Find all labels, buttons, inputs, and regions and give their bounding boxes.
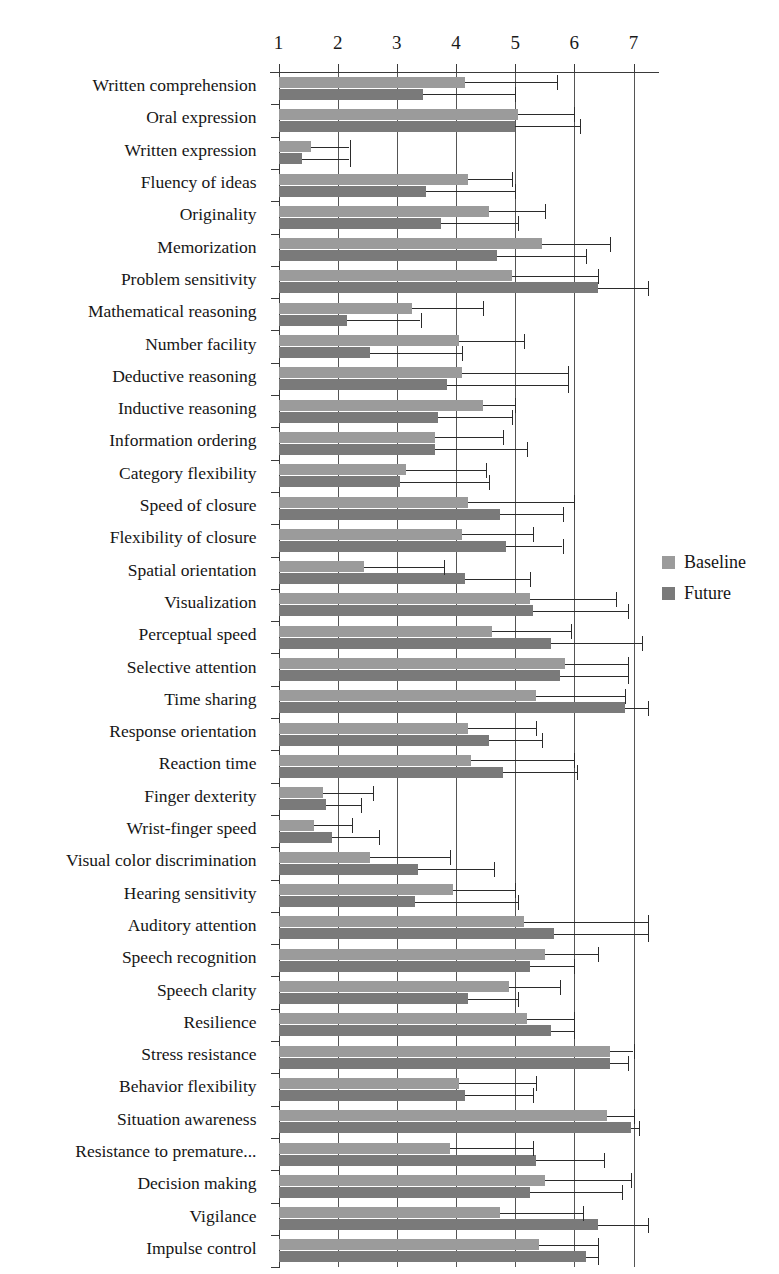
- error-bar-baseline-line: [512, 276, 598, 277]
- category-label: Originality: [0, 206, 269, 224]
- category-tick: [271, 944, 280, 945]
- legend-label: Future: [684, 583, 731, 604]
- error-bar-baseline-cap: [583, 1206, 584, 1221]
- category-label: Stress resistance: [0, 1046, 269, 1064]
- error-bar-baseline-line: [468, 502, 575, 503]
- legend-label: Baseline: [684, 552, 746, 573]
- bar-future: [279, 89, 424, 100]
- category-label: Memorization: [0, 239, 269, 257]
- x-tick-label: 5: [495, 32, 535, 54]
- bar-future: [279, 735, 489, 746]
- bar-baseline: [279, 1078, 459, 1089]
- bar-future: [279, 1219, 599, 1230]
- error-bar-future-cap: [586, 249, 587, 264]
- error-bar-baseline-cap: [571, 624, 572, 639]
- error-bar-future-cap: [574, 1024, 575, 1039]
- category-tick: [271, 330, 280, 331]
- error-bar-future-cap: [462, 346, 463, 361]
- error-bar-baseline-line: [412, 308, 483, 309]
- category-label: Resistance to premature...: [0, 1143, 269, 1161]
- error-bar-baseline-cap: [450, 850, 451, 865]
- error-bar-baseline-line: [542, 244, 610, 245]
- category-label: Selective attention: [0, 659, 269, 677]
- error-bar-baseline-line: [607, 1116, 634, 1117]
- error-bar-baseline-line: [311, 147, 349, 148]
- error-bar-future-line: [631, 1128, 640, 1129]
- category-label: Number facility: [0, 336, 269, 354]
- error-bar-future-cap: [577, 765, 578, 780]
- bar-baseline: [279, 174, 468, 185]
- bar-baseline: [279, 270, 513, 281]
- error-bar-future-cap: [494, 862, 495, 877]
- category-tick: [271, 750, 280, 751]
- error-bar-baseline-line: [565, 664, 627, 665]
- bar-future: [279, 1155, 536, 1166]
- category-tick: [271, 201, 280, 202]
- error-bar-future-cap: [361, 798, 362, 813]
- bar-baseline: [279, 497, 468, 508]
- error-bar-baseline-line: [314, 825, 352, 826]
- bar-baseline: [279, 916, 525, 927]
- error-bar-future-line: [423, 94, 515, 95]
- error-bar-future-cap: [642, 636, 643, 651]
- category-tick: [271, 363, 280, 364]
- error-bar-future-line: [489, 740, 542, 741]
- bar-baseline: [279, 658, 566, 669]
- error-bar-future-line: [400, 482, 489, 483]
- x-tick-label: 3: [377, 32, 417, 54]
- error-bar-future-cap: [648, 281, 649, 296]
- bar-future: [279, 864, 418, 875]
- bar-future: [279, 347, 371, 358]
- category-label: Speech recognition: [0, 949, 269, 967]
- error-bar-baseline-line: [483, 405, 516, 406]
- error-bar-baseline-cap: [634, 1109, 635, 1124]
- error-bar-future-line: [586, 1257, 598, 1258]
- error-bar-future-line: [598, 288, 648, 289]
- category-tick: [271, 524, 280, 525]
- error-bar-future-line: [347, 320, 421, 321]
- error-bar-future-line: [625, 708, 649, 709]
- bar-baseline: [279, 303, 412, 314]
- error-bar-future-line: [415, 902, 519, 903]
- error-bar-baseline-line: [545, 954, 598, 955]
- error-bar-future-cap: [628, 669, 629, 684]
- bar-baseline: [279, 335, 459, 346]
- error-bar-future-line: [560, 676, 628, 677]
- error-bar-future-cap: [421, 313, 422, 328]
- category-tick: [271, 1138, 280, 1139]
- bar-baseline: [279, 949, 545, 960]
- category-tick: [271, 1170, 280, 1171]
- category-tick: [271, 976, 280, 977]
- category-tick: [271, 492, 280, 493]
- error-bar-baseline-cap: [515, 398, 516, 413]
- error-bar-baseline-cap: [545, 204, 546, 219]
- category-tick: [271, 234, 280, 235]
- bar-future: [279, 573, 465, 584]
- error-bar-future-line: [435, 449, 527, 450]
- category-label: Written comprehension: [0, 77, 269, 95]
- category-label: Speech clarity: [0, 982, 269, 1000]
- error-bar-future-line: [530, 1192, 622, 1193]
- error-bar-baseline-cap: [616, 592, 617, 607]
- error-bar-future-line: [506, 546, 562, 547]
- category-tick: [271, 395, 280, 396]
- bar-future: [279, 961, 530, 972]
- error-bar-future-line: [441, 223, 518, 224]
- error-bar-future-cap: [518, 895, 519, 910]
- bar-baseline: [279, 626, 492, 637]
- category-tick: [271, 137, 280, 138]
- bar-future: [279, 605, 533, 616]
- bar-future: [279, 928, 554, 939]
- error-bar-baseline-line: [610, 1051, 634, 1052]
- error-bar-baseline-cap: [515, 883, 516, 898]
- error-bar-future-line: [536, 1160, 604, 1161]
- error-bar-baseline-cap: [524, 334, 525, 349]
- error-bar-future-cap: [580, 119, 581, 134]
- error-bar-baseline-line: [489, 211, 545, 212]
- error-bar-future-line: [332, 837, 379, 838]
- error-bar-future-line: [598, 1225, 648, 1226]
- error-bar-baseline-cap: [560, 980, 561, 995]
- category-label: Vigilance: [0, 1208, 269, 1226]
- error-bar-future-cap: [639, 1121, 640, 1136]
- bar-baseline: [279, 77, 465, 88]
